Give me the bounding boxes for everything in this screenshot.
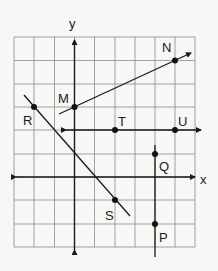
point-S — [112, 197, 118, 203]
label-R: R — [23, 113, 32, 128]
x-axis-label: x — [200, 172, 207, 187]
label-U: U — [178, 114, 187, 129]
y-axis-label: y — [69, 16, 76, 31]
label-S: S — [105, 208, 114, 223]
point-P — [152, 221, 158, 227]
point-Q — [152, 151, 158, 157]
label-Q: Q — [159, 159, 169, 174]
label-M: M — [58, 91, 69, 106]
label-N: N — [162, 40, 171, 55]
point-M — [72, 104, 78, 110]
point-N — [172, 58, 178, 64]
label-P: P — [159, 230, 168, 245]
point-R — [31, 104, 37, 110]
label-T: T — [118, 114, 126, 129]
line-MN — [59, 53, 191, 114]
coordinate-plane: y x M N R S T U Q P — [0, 0, 218, 271]
